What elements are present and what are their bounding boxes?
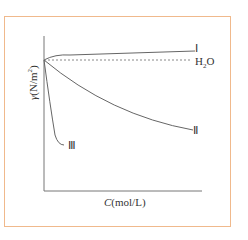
- y-unit-sup: 2: [26, 69, 34, 73]
- y-axis-label: γ(N/m2): [26, 65, 39, 100]
- water-h: H: [195, 55, 203, 67]
- x-unit: (mol/L): [111, 196, 145, 208]
- label-curve-i: Ⅰ: [195, 42, 198, 55]
- curve-ii-text: Ⅱ: [193, 124, 198, 136]
- y-symbol: γ: [27, 96, 39, 100]
- curve-iii-text: Ⅲ: [68, 139, 76, 151]
- label-curve-iii: Ⅲ: [68, 139, 76, 152]
- label-curve-ii: Ⅱ: [193, 124, 198, 137]
- y-unit-end: ): [27, 65, 39, 69]
- label-water: H2O: [195, 55, 214, 70]
- x-axis-label: C(mol/L): [104, 196, 146, 208]
- curve-i: [44, 51, 195, 60]
- curve-ii: [44, 60, 193, 130]
- water-o: O: [206, 55, 214, 67]
- y-unit: (N/m: [27, 72, 39, 95]
- curve-i-text: Ⅰ: [195, 42, 198, 54]
